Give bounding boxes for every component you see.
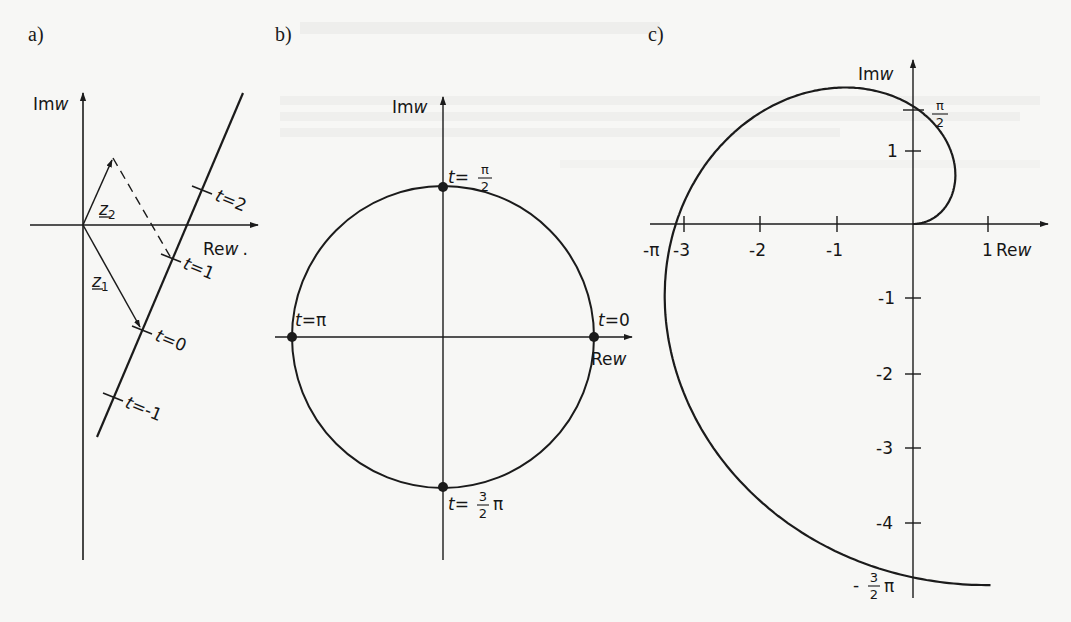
imag-axis-label: Imw [858, 64, 894, 84]
point-t-pi [287, 332, 297, 342]
tick-label-t0: t=0 [153, 325, 190, 355]
svg-text:π: π [936, 98, 944, 113]
svg-text:2: 2 [481, 179, 489, 194]
point-t-pi-half [438, 182, 448, 192]
y-tick-minus-4: -4 [876, 513, 893, 533]
vector-z2-label: z2 [98, 199, 116, 222]
svg-text:2: 2 [479, 506, 487, 521]
real-axis-label: Rew [996, 240, 1032, 260]
x-tick-1: 1 [982, 240, 993, 260]
svg-text:3: 3 [870, 570, 878, 585]
y-label-minus-3pi-half: - 3 2 π [853, 570, 894, 602]
imag-axis-label: Imw [392, 97, 428, 117]
panel-c: c) Imw Rew -π -3 -2 -1 1 1 -1 -2 -3 -4 [643, 23, 1048, 602]
svg-text:2: 2 [870, 587, 878, 602]
svg-text:t=: t= [448, 167, 469, 187]
panel-a-label: a) [28, 23, 44, 46]
svg-text:t=-1: t=-1 [123, 392, 166, 425]
svg-text:-: - [853, 575, 859, 595]
tick-label-t2: t=2 [213, 185, 250, 215]
x-tick-minus-3: -3 [673, 240, 690, 260]
svg-text:π: π [493, 494, 503, 514]
vector-z1-label: z1 [91, 271, 109, 294]
figure-canvas: a) Imw Rew. z2 z1 t=2 t= [0, 0, 1071, 622]
real-axis-label: Rew [591, 349, 627, 369]
imag-axis-label: Imw [33, 94, 69, 114]
svg-text:π: π [481, 162, 489, 177]
x-tick-minus-pi: -π [643, 240, 659, 260]
svg-text:t=: t= [448, 494, 469, 514]
parametric-line [97, 93, 243, 437]
point-t-3pi-half [438, 482, 448, 492]
x-tick-minus-1: -1 [826, 240, 843, 260]
svg-text:t=0: t=0 [153, 325, 190, 355]
x-tick-minus-2: -2 [749, 240, 766, 260]
label-t-3pi-half: t= 3 2 π [448, 489, 503, 521]
y-tick-1: 1 [887, 141, 898, 161]
svg-text:t=2: t=2 [213, 185, 250, 215]
y-tick-minus-1: -1 [878, 288, 895, 308]
real-axis-label: Rew. [203, 239, 248, 259]
panel-a: a) Imw Rew. z2 z1 t=2 t= [28, 23, 258, 560]
difference-dashed-line [113, 158, 171, 258]
panel-b-label: b) [275, 23, 292, 46]
svg-text:π: π [884, 576, 894, 596]
y-tick-minus-2: -2 [876, 364, 893, 384]
svg-text:3: 3 [479, 489, 487, 504]
tick-label-tminus1: t=-1 [123, 392, 166, 425]
svg-text:z1: z1 [91, 271, 109, 294]
point-t-0 [589, 332, 599, 342]
label-t-pi: t=π [295, 310, 326, 330]
y-tick-minus-3: -3 [876, 438, 893, 458]
svg-text:z2: z2 [98, 199, 116, 222]
panel-c-label: c) [648, 23, 664, 46]
label-t-0: t=0 [598, 310, 630, 330]
